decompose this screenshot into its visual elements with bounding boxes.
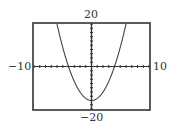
graph-window xyxy=(0,0,172,125)
